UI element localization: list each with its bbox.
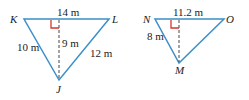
side-label-nm: 8 m xyxy=(147,30,164,42)
similar-triangles-diagram: K L J 14 m 10 m 12 m 9 m N O M 11.2 m 8 … xyxy=(0,0,249,100)
vertex-label-k: K xyxy=(9,13,18,25)
side-label-kj: 10 m xyxy=(17,41,40,53)
right-angle-marker-klj xyxy=(51,20,59,28)
side-label-kl: 14 m xyxy=(57,6,80,18)
right-angle-marker-nom xyxy=(171,20,179,28)
vertex-label-m: M xyxy=(174,64,185,76)
triangle-nom: N O M 11.2 m 8 m xyxy=(142,6,234,76)
side-label-no: 11.2 m xyxy=(173,6,204,18)
vertex-label-l: L xyxy=(111,13,118,25)
side-label-lj: 12 m xyxy=(90,47,113,59)
triangle-nom-outline xyxy=(155,19,224,63)
vertex-label-n: N xyxy=(142,13,151,25)
vertex-label-j: J xyxy=(56,83,62,95)
vertex-label-o: O xyxy=(226,13,234,25)
altitude-label-klj: 9 m xyxy=(62,37,79,49)
triangle-klj: K L J 14 m 10 m 12 m 9 m xyxy=(9,6,118,95)
